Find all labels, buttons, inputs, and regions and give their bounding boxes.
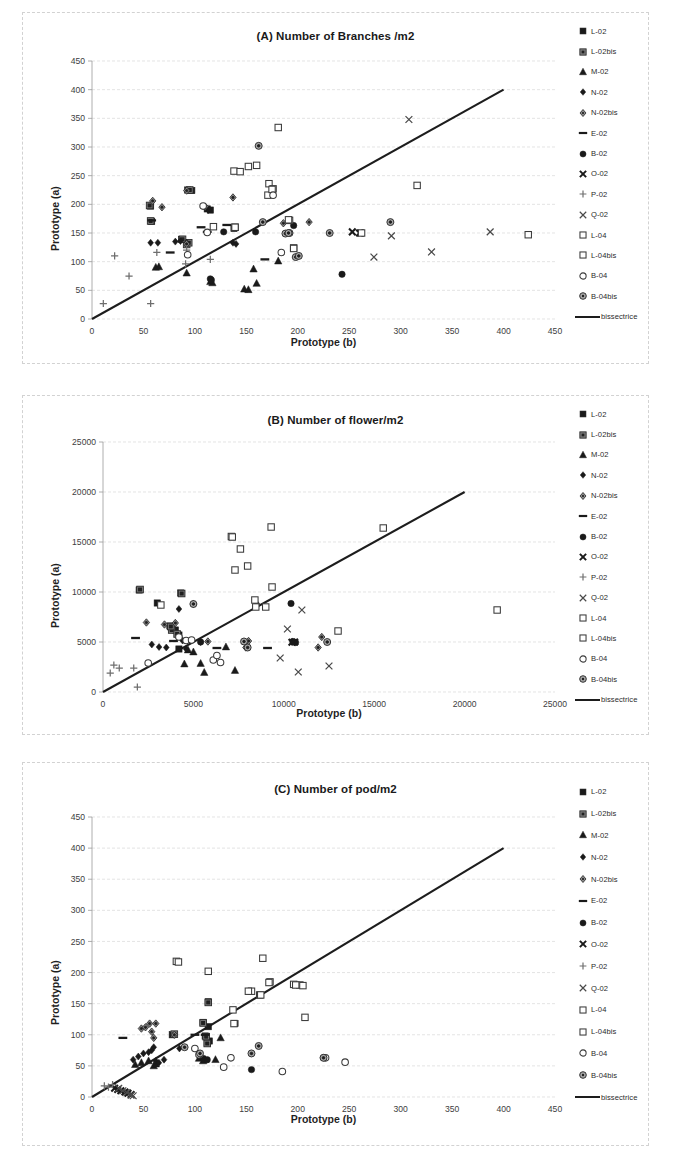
legend-item-q-02[interactable]: Q-02 [575,205,637,225]
legend-item-e-02[interactable]: E-02 [575,506,637,526]
chart-c-legend: L-02L-02bisM-02N-02N-02bisE-02B-02O-02P-… [575,781,637,1108]
legend-marker-dotted-circle-icon [575,673,591,685]
svg-text:300: 300 [71,905,86,915]
legend-item-o-02[interactable]: O-02 [575,547,637,567]
legend-marker-dash-icon [575,127,591,139]
legend-item-l-02[interactable]: L-02 [575,781,637,803]
chart-b-title: (B) Number of flower/m2 [23,414,648,426]
legend-marker-open-square-icon [575,612,591,624]
legend-item-l-04[interactable]: L-04 [575,608,637,628]
svg-text:400: 400 [496,1104,511,1114]
svg-text:25000: 25000 [72,437,96,447]
legend-item-l-02[interactable]: L-02 [575,21,637,41]
legend-item-e-02[interactable]: E-02 [575,123,637,143]
legend-item-b-04bis[interactable]: B-04bis [575,286,637,306]
legend-item-b-04[interactable]: B-04 [575,1043,637,1065]
legend-item-b-02[interactable]: B-02 [575,912,637,934]
legend-marker-filled-triangle-icon [575,449,591,461]
legend-item-n-02[interactable]: N-02 [575,465,637,485]
legend-item-n-02bis[interactable]: N-02bis [575,868,637,890]
legend-item-m-02[interactable]: M-02 [575,825,637,847]
svg-text:10000: 10000 [72,587,96,597]
legend-item-n-02bis[interactable]: N-02bis [575,486,637,506]
svg-text:200: 200 [71,199,86,209]
svg-text:100: 100 [71,1030,86,1040]
legend-item-l-02bis[interactable]: L-02bis [575,424,637,444]
legend-marker-bold-x-icon [575,938,591,950]
legend-label: B-04 [591,271,607,280]
legend-item-b-04bis[interactable]: B-04bis [575,1064,637,1086]
svg-text:300: 300 [71,142,86,152]
legend-marker-x-icon [575,592,591,604]
legend-marker-open-square-icon [575,229,591,241]
legend-marker-shaded-diamond-icon [575,490,591,502]
legend-label: B-02 [591,532,607,541]
legend-item-o-02[interactable]: O-02 [575,934,637,956]
legend-item-bissectrice[interactable]: bissectrice [575,689,637,709]
legend-marker-shaded-diamond-icon [575,873,591,885]
chart-b-canvas: 0500010000150002000025000050001000015000… [23,432,568,722]
legend-marker-filled-triangle-icon [575,829,591,841]
legend-label: B-04bis [591,292,617,301]
legend-item-p-02[interactable]: P-02 [575,955,637,977]
legend-label: Q-02 [591,210,608,219]
svg-text:400: 400 [71,85,86,95]
legend-item-bissectrice[interactable]: bissectrice [575,1086,637,1108]
legend-label: P-02 [591,573,607,582]
legend-label: B-04bis [591,1071,617,1080]
svg-text:400: 400 [496,326,511,336]
svg-text:150: 150 [239,326,254,336]
legend-label: L-02bis [591,47,616,56]
svg-text:20000: 20000 [453,699,477,709]
legend-label: O-02 [591,552,608,561]
legend-item-n-02[interactable]: N-02 [575,846,637,868]
legend-item-l-04bis[interactable]: L-04bis [575,245,637,265]
legend-item-bissectrice[interactable]: bissectrice [575,306,637,326]
legend-label: bissectrice [601,1093,637,1102]
legend-item-b-02[interactable]: B-02 [575,143,637,163]
legend-marker-open-circle-icon [575,1047,591,1059]
legend-label: L-02 [591,787,606,796]
svg-text:20000: 20000 [72,487,96,497]
legend-marker-filled-square-icon [575,786,591,798]
legend-marker-filled-diamond-icon [575,851,591,863]
svg-text:100: 100 [71,257,86,267]
legend-item-b-04[interactable]: B-04 [575,266,637,286]
legend-label: L-02 [591,27,606,36]
legend-item-l-04bis[interactable]: L-04bis [575,628,637,648]
legend-item-l-04bis[interactable]: L-04bis [575,1021,637,1043]
legend-item-n-02bis[interactable]: N-02bis [575,103,637,123]
legend-item-l-02[interactable]: L-02 [575,404,637,424]
legend-marker-dash-icon [575,895,591,907]
legend-item-l-04[interactable]: L-04 [575,225,637,245]
figure-page: (A) Number of Branches /m2 Prototype (a)… [0,0,673,1158]
legend-item-l-02bis[interactable]: L-02bis [575,41,637,61]
legend-item-l-02bis[interactable]: L-02bis [575,803,637,825]
legend-label: B-02 [591,918,607,927]
legend-line-icon [575,699,601,701]
legend-label: B-04 [591,1049,607,1058]
legend-item-p-02[interactable]: P-02 [575,567,637,587]
legend-marker-bold-x-icon [575,551,591,563]
svg-text:0: 0 [80,314,85,324]
legend-item-n-02[interactable]: N-02 [575,82,637,102]
legend-item-l-04[interactable]: L-04 [575,999,637,1021]
legend-marker-filled-circle-icon [575,917,591,929]
svg-text:0: 0 [91,687,96,697]
legend-marker-filled-triangle-icon [575,66,591,78]
svg-text:350: 350 [445,326,460,336]
legend-item-p-02[interactable]: P-02 [575,184,637,204]
legend-item-m-02[interactable]: M-02 [575,445,637,465]
legend-item-q-02[interactable]: Q-02 [575,588,637,608]
legend-item-q-02[interactable]: Q-02 [575,977,637,999]
legend-label: N-02 [591,853,608,862]
svg-text:450: 450 [71,812,86,822]
legend-item-b-04bis[interactable]: B-04bis [575,669,637,689]
legend-item-o-02[interactable]: O-02 [575,164,637,184]
legend-item-e-02[interactable]: E-02 [575,890,637,912]
legend-item-m-02[interactable]: M-02 [575,62,637,82]
svg-text:200: 200 [291,1104,306,1114]
legend-item-b-04[interactable]: B-04 [575,649,637,669]
chart-panel-b: (B) Number of flower/m2 Prototype (a) Pr… [22,395,649,735]
legend-item-b-02[interactable]: B-02 [575,526,637,546]
